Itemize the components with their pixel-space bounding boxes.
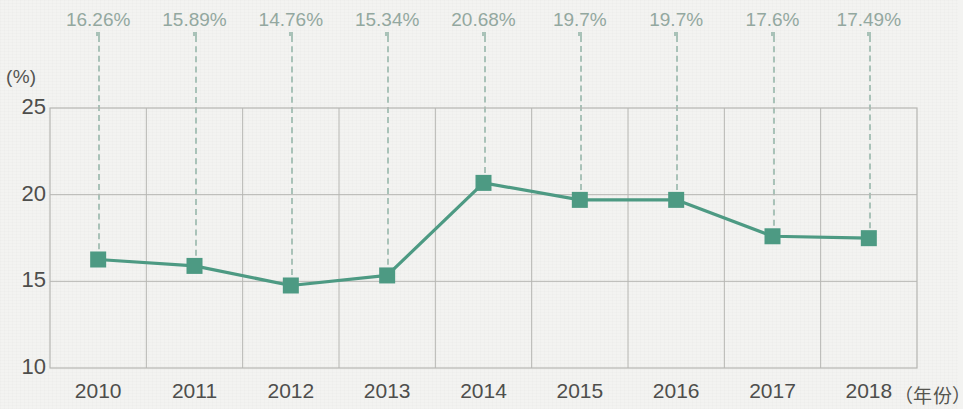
data-point-marker-2018[interactable]: [861, 230, 877, 246]
data-point-marker-2011[interactable]: [187, 258, 203, 274]
data-point-marker-2013[interactable]: [379, 267, 395, 283]
data-point-marker-2017[interactable]: [765, 228, 781, 244]
data-line-series: [98, 183, 869, 286]
data-point-marker-2015[interactable]: [572, 192, 588, 208]
data-point-marker-2010[interactable]: [90, 251, 106, 267]
data-point-marker-2016[interactable]: [668, 192, 684, 208]
data-point-marker-2014[interactable]: [476, 175, 492, 191]
data-point-marker-2012[interactable]: [283, 277, 299, 293]
